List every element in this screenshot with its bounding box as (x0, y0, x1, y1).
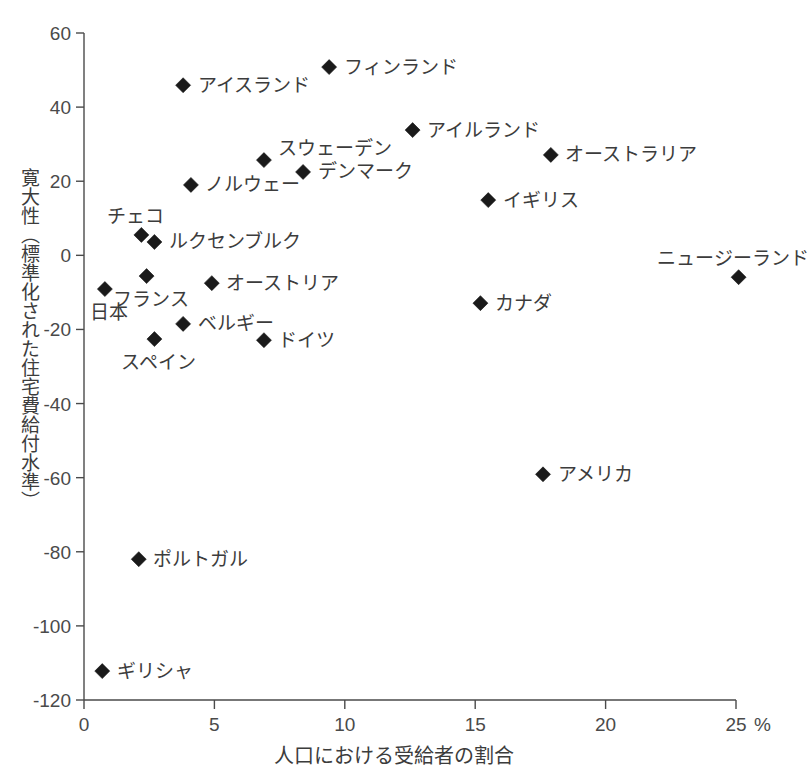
y-axis-title: 寛大性（標準化された住宅費給付水準） (8, 168, 38, 510)
data-point-label: デンマーク (318, 162, 413, 181)
data-marker[interactable] (256, 153, 271, 168)
y-tick-label: -60 (44, 468, 71, 489)
data-point-label: ドイツ (278, 331, 335, 350)
x-tick-label: 15 (465, 714, 486, 735)
data-marker[interactable] (481, 193, 496, 208)
data-point-label: オーストリア (226, 274, 339, 293)
data-marker[interactable] (322, 60, 337, 75)
y-tick-label: -120 (33, 690, 71, 711)
x-tick-label: 25 (725, 714, 746, 735)
data-point-label: 日本 (90, 303, 128, 322)
data-marker[interactable] (256, 333, 271, 348)
data-point-label: スウェーデン (278, 139, 392, 158)
x-axis-unit-suffix: % (754, 714, 771, 735)
y-tick-label: 0 (60, 245, 71, 266)
y-tick-label: 40 (50, 97, 71, 118)
data-marker[interactable] (473, 296, 488, 311)
y-tick-label: -40 (44, 394, 71, 415)
data-point-label: ノルウェー (205, 175, 300, 194)
data-marker[interactable] (176, 78, 191, 93)
x-tick-label: 5 (209, 714, 220, 735)
data-marker[interactable] (147, 234, 162, 249)
data-marker[interactable] (131, 552, 146, 567)
data-marker[interactable] (204, 276, 219, 291)
data-point-label: ニュージーランド (657, 249, 809, 268)
data-marker[interactable] (543, 147, 558, 162)
data-marker[interactable] (536, 467, 551, 482)
data-point-label: ルクセンブルク (169, 232, 301, 251)
data-point-label: アイルランド (427, 121, 540, 140)
tick-labels-group: 6040200-20-40-60-80-100-1200510152025% (33, 23, 771, 735)
x-tick-label: 0 (79, 714, 90, 735)
y-tick-label: -80 (44, 542, 71, 563)
data-point-label: ポルトガル (153, 550, 248, 569)
data-point-label: ベルギー (198, 314, 274, 333)
data-marker[interactable] (176, 316, 191, 331)
data-point-label: チェコ (107, 207, 164, 226)
data-marker[interactable] (95, 664, 110, 679)
data-marker[interactable] (97, 282, 112, 297)
data-marker[interactable] (134, 227, 149, 242)
x-tick-label: 20 (595, 714, 616, 735)
data-point-label: フィンランド (344, 58, 458, 77)
y-tick-label: 20 (50, 171, 71, 192)
data-point-label: スペイン (121, 353, 196, 372)
data-point-label: アメリカ (558, 465, 633, 484)
data-point-label: アイスランド (198, 76, 310, 95)
y-tick-label: -20 (44, 319, 71, 340)
x-axis-title: 人口における受給者の割合 (0, 740, 788, 769)
x-tick-label: 10 (334, 714, 355, 735)
y-tick-label: 60 (50, 23, 71, 44)
y-tick-label: -100 (33, 616, 71, 637)
data-point-label: オーストラリア (565, 145, 697, 164)
data-marker[interactable] (139, 269, 154, 284)
data-point-label: カナダ (495, 294, 552, 313)
data-marker[interactable] (405, 123, 420, 138)
data-marker[interactable] (183, 177, 198, 192)
data-point-label: イギリス (503, 191, 579, 210)
data-marker[interactable] (731, 270, 746, 285)
data-point-label: ギリシャ (117, 662, 193, 681)
data-marker[interactable] (147, 332, 162, 347)
